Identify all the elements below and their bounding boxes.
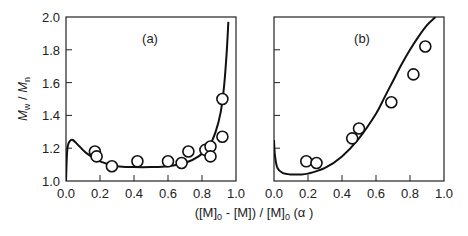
panel-b: 0.00.20.40.60.81.0(b) [265,17,453,201]
y-axis-title: Mw / Mn [15,77,32,121]
data-point [408,69,419,80]
data-point [420,41,431,52]
x-tick-label: 0.4 [333,186,351,201]
y-tick-label: 1.0 [42,174,60,189]
x-tick-label: 0.2 [299,186,317,201]
data-point [347,133,358,144]
data-point [91,151,102,162]
x-tick-label: 0.8 [193,186,211,201]
x-tick-label: 0.8 [401,186,419,201]
x-tick-label: 0.6 [367,186,385,201]
data-point [386,97,397,108]
x-tick-label: 0.4 [125,186,143,201]
panel-label: (a) [142,31,158,46]
data-point [183,146,194,157]
y-tick-label: 1.8 [42,43,60,58]
data-point [106,161,117,172]
x-tick-label: 1.0 [435,186,453,201]
x-tick-label: 0.6 [159,186,177,201]
data-point [301,156,312,167]
data-point [217,94,228,105]
data-point [163,156,174,167]
x-tick-label: 0.0 [265,186,283,201]
data-point [217,131,228,142]
y-tick-label: 1.2 [42,141,60,156]
x-tick-label: 0.2 [91,186,109,201]
x-axis-title: ([M]0 - [M]) / [M]0 (α ) [195,205,314,222]
panel-a: 0.00.20.40.60.81.01.01.21.41.61.82.0(a) [42,10,245,201]
data-point [176,157,187,168]
x-tick-label: 1.0 [227,186,245,201]
y-tick-label: 1.4 [42,108,60,123]
data-point [311,157,322,168]
data-point [205,151,216,162]
figure: 0.00.20.40.60.81.01.01.21.41.61.82.0(a) … [0,0,468,236]
data-point [132,156,143,167]
y-tick-label: 2.0 [42,10,60,25]
y-tick-label: 1.6 [42,76,60,91]
panel-label: (b) [354,31,370,46]
data-point [354,123,365,134]
